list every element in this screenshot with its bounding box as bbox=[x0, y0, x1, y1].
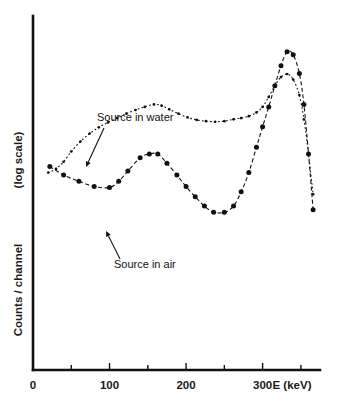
water-data-point bbox=[286, 73, 289, 76]
x-tick-label: 200 bbox=[176, 379, 195, 391]
water-data-point bbox=[70, 150, 73, 153]
air-data-point bbox=[301, 102, 306, 107]
y-axis-title-main: Counts / channel bbox=[12, 244, 24, 337]
annotation-arrow-source-in-air bbox=[108, 236, 120, 259]
air-data-point bbox=[138, 155, 143, 160]
air-data-point bbox=[231, 204, 236, 209]
air-data-point bbox=[116, 179, 121, 184]
x-axis-tick-labels: 0100200300 bbox=[30, 379, 272, 391]
water-data-point bbox=[214, 120, 217, 123]
air-data-point bbox=[222, 210, 227, 215]
water-data-point bbox=[255, 111, 258, 114]
air-data-point bbox=[202, 204, 207, 209]
water-data-point bbox=[160, 104, 163, 107]
water-data-point bbox=[153, 103, 156, 106]
air-data-point bbox=[239, 189, 244, 194]
water-data-point bbox=[292, 78, 295, 81]
water-data-point bbox=[247, 115, 250, 118]
air-data-point bbox=[147, 152, 152, 157]
water-data-point bbox=[298, 94, 301, 97]
air-data-point bbox=[246, 170, 251, 175]
air-data-point bbox=[155, 152, 160, 157]
air-data-point bbox=[306, 152, 311, 157]
air-data-point bbox=[211, 210, 216, 215]
spectrum-plot: 0100200300 E (keV) Counts / channel (log… bbox=[0, 0, 343, 402]
series-source-in-air bbox=[47, 49, 315, 215]
figure-container: 0100200300 E (keV) Counts / channel (log… bbox=[0, 0, 343, 402]
air-data-point bbox=[311, 207, 316, 212]
annotation-label-source-in-air: Source in air bbox=[114, 258, 176, 270]
y-axis-title-scale: (log scale) bbox=[12, 131, 24, 188]
water-data-point bbox=[88, 132, 91, 135]
air-data-point bbox=[76, 179, 81, 184]
x-tick-label: 0 bbox=[30, 379, 36, 391]
air-data-point bbox=[278, 63, 283, 68]
air-data-point bbox=[297, 71, 302, 76]
x-axis-title: E (keV) bbox=[273, 379, 312, 391]
x-tick-label: 300 bbox=[253, 379, 272, 391]
water-data-point bbox=[261, 106, 264, 109]
air-data-point bbox=[285, 49, 290, 54]
water-data-point bbox=[303, 118, 306, 121]
water-data-point bbox=[240, 117, 243, 120]
water-data-point bbox=[47, 171, 50, 174]
air-data-point bbox=[92, 184, 97, 189]
annotations: Source in waterSource in air bbox=[86, 111, 176, 270]
water-data-point bbox=[205, 120, 208, 123]
x-tick-label: 100 bbox=[100, 379, 119, 391]
water-data-point bbox=[79, 140, 82, 143]
water-data-point bbox=[186, 116, 189, 119]
axis-group bbox=[33, 16, 320, 370]
air-curve-line bbox=[50, 51, 313, 213]
annotation-label-source-in-water: Source in water bbox=[97, 111, 174, 123]
water-data-point bbox=[232, 118, 235, 121]
air-data-point bbox=[272, 83, 277, 88]
air-data-point bbox=[174, 173, 179, 178]
air-data-point bbox=[125, 169, 130, 174]
water-data-point bbox=[280, 76, 283, 79]
air-data-point bbox=[260, 124, 265, 129]
air-data-point bbox=[107, 185, 112, 190]
water-data-point bbox=[195, 119, 198, 122]
water-data-point bbox=[267, 96, 270, 99]
air-data-point bbox=[266, 104, 271, 109]
series-source-in-water bbox=[47, 73, 315, 196]
air-data-point bbox=[61, 173, 66, 178]
water-data-point bbox=[223, 120, 226, 123]
water-data-point bbox=[97, 126, 100, 129]
air-data-point bbox=[254, 145, 259, 150]
air-data-point bbox=[291, 52, 296, 57]
air-data-point bbox=[184, 184, 189, 189]
air-data-point bbox=[193, 194, 198, 199]
water-data-point bbox=[177, 112, 180, 115]
air-data-point bbox=[164, 161, 169, 166]
water-data-point bbox=[62, 160, 65, 163]
water-data-point bbox=[143, 106, 146, 109]
air-data-point bbox=[47, 164, 52, 169]
